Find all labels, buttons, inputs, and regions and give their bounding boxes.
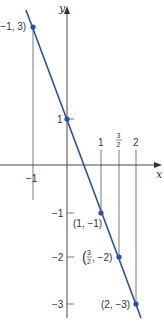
point-label-minus1-3: (−1, 3)	[0, 21, 26, 32]
point-label-3-2-minus2-num: 3	[87, 249, 91, 256]
x-tick-label-3-2-num: 3	[117, 132, 121, 139]
point-2-minus3	[133, 301, 138, 306]
x-tick-label-minus1: −1	[26, 173, 38, 184]
x-tick-label-3-2-den: 2	[117, 141, 121, 148]
point-minus1-3	[30, 24, 35, 29]
chart-canvas: y x −1 1 3 2 2 1 −1 −2 −3 (−1, 3) (1, −1…	[0, 0, 164, 329]
point-label-2-minus3: (2, −3)	[101, 299, 130, 310]
point-3-2-minus2	[116, 254, 121, 259]
point-0-1	[64, 116, 69, 121]
y-tick-label-1: 1	[57, 114, 63, 125]
y-tick-label-minus1: −1	[52, 208, 64, 219]
x-tick-label-1: 1	[98, 137, 104, 148]
point-label-3-2-minus2-rest: , −2)	[92, 252, 112, 263]
y-tick-label-minus2: −2	[52, 252, 64, 263]
x-tick-label-2: 2	[133, 137, 139, 148]
y-tick-label-minus3: −3	[52, 299, 64, 310]
y-axis-label: y	[58, 2, 66, 15]
point-label-3-2-minus2-den: 2	[87, 258, 91, 265]
point-1-minus1	[98, 210, 103, 215]
point-label-1-minus1: (1, −1)	[73, 218, 102, 229]
data-line	[26, 10, 141, 318]
x-axis-label: x	[156, 168, 163, 181]
